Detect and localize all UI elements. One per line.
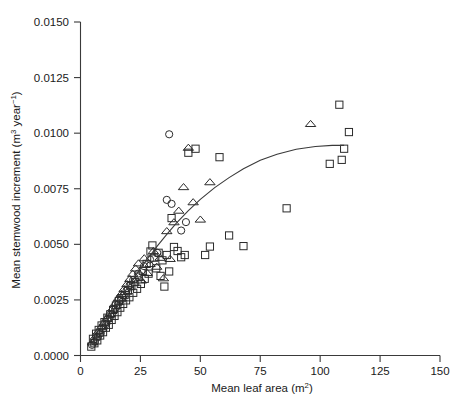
data-point-triangle xyxy=(178,184,188,190)
x-tick-label: 150 xyxy=(430,365,449,377)
data-point-triangle xyxy=(305,120,315,126)
scatter-plot-figure: 0.00000.00250.00500.00750.01000.01250.01… xyxy=(0,0,456,407)
y-tick-label: 0.0025 xyxy=(34,294,69,306)
data-point-square xyxy=(166,268,173,275)
data-point-square xyxy=(161,283,168,290)
data-point-circle xyxy=(166,131,173,138)
x-tick-label: 0 xyxy=(77,365,83,377)
data-point-square xyxy=(225,232,232,239)
data-point-triangle xyxy=(195,216,205,222)
data-point-square xyxy=(192,145,199,152)
y-tick-label: 0.0125 xyxy=(34,72,69,84)
x-axis-title: Mean leaf area (m2) xyxy=(211,381,313,394)
plot-canvas: 0.00000.00250.00500.00750.01000.01250.01… xyxy=(0,0,456,407)
data-point-triangle xyxy=(205,179,215,185)
y-axis-title: Mean stemwood increment (m3 year−1) xyxy=(9,91,22,288)
data-point-circle xyxy=(163,196,170,203)
data-point-square xyxy=(283,205,290,212)
x-tick-label: 50 xyxy=(194,365,207,377)
data-point-square xyxy=(206,243,213,250)
data-point-square xyxy=(341,145,348,152)
data-point-square xyxy=(240,243,247,250)
x-axis-ticks: 0255075100125150 xyxy=(77,356,449,378)
data-point-square xyxy=(326,160,333,167)
x-tick-label: 100 xyxy=(311,365,330,377)
y-tick-label: 0.0100 xyxy=(34,127,69,139)
data-point-square xyxy=(216,154,223,161)
data-point-triangle xyxy=(174,207,184,213)
y-axis-title-part3: ) xyxy=(10,91,22,95)
data-point-square xyxy=(336,101,343,108)
y-axis-title-part1: Mean stemwood increment (m xyxy=(10,134,22,289)
y-tick-label: 0.0000 xyxy=(34,350,69,362)
y-tick-label: 0.0050 xyxy=(34,238,69,250)
x-tick-label: 25 xyxy=(134,365,147,377)
data-point-circle xyxy=(182,219,189,226)
fitted-curve xyxy=(92,145,344,344)
data-markers-layer xyxy=(87,101,352,350)
data-point-square xyxy=(163,251,170,258)
series-squares xyxy=(88,101,353,350)
x-tick-label: 75 xyxy=(254,365,267,377)
data-point-square xyxy=(345,128,352,135)
y-axis-title-superscript-minus1: −1 xyxy=(9,95,18,104)
y-tick-label: 0.0075 xyxy=(34,183,69,195)
y-axis-title-part2: year xyxy=(10,104,22,130)
data-point-circle xyxy=(178,227,185,234)
data-point-square xyxy=(338,156,345,163)
y-axis-ticks: 0.00000.00250.00500.00750.01000.01250.01… xyxy=(34,16,81,362)
x-tick-label: 125 xyxy=(370,365,389,377)
data-point-triangle xyxy=(188,199,198,205)
data-point-square xyxy=(202,251,209,258)
y-tick-label: 0.0150 xyxy=(34,16,69,28)
data-point-circle xyxy=(168,200,175,207)
x-axis-title-base: Mean leaf area (m xyxy=(211,382,304,394)
x-axis-title-tail: ) xyxy=(309,382,313,394)
